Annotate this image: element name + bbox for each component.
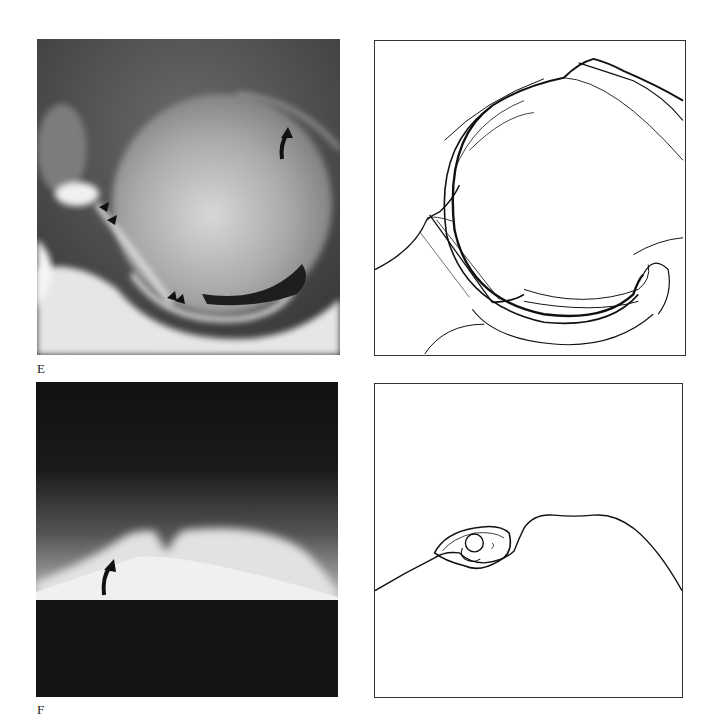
line-drawing-f — [375, 384, 682, 697]
panel-e-radiograph — [37, 39, 340, 355]
panel-f-line-drawing — [374, 383, 683, 698]
panel-label-f: F — [37, 703, 44, 716]
panel-label-e: E — [37, 362, 45, 375]
radiograph-f-image — [36, 382, 338, 697]
panel-f-radiograph — [36, 382, 338, 697]
line-drawing-e — [375, 41, 685, 355]
panel-e-line-drawing — [374, 40, 686, 356]
radiograph-e-image — [37, 39, 340, 355]
